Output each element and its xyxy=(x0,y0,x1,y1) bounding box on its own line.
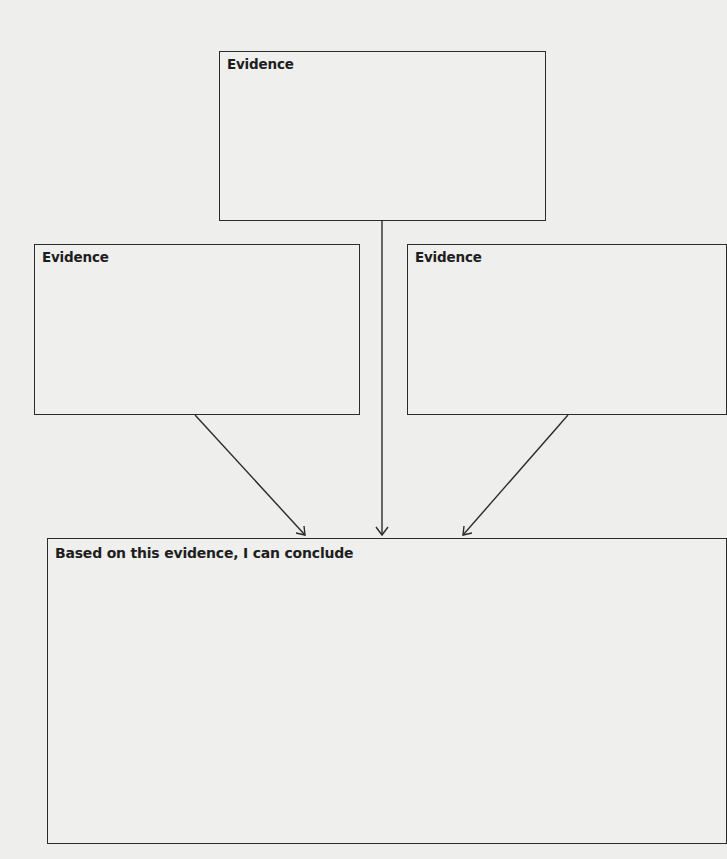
arrow-left xyxy=(195,415,305,535)
arrow-right xyxy=(463,415,568,535)
